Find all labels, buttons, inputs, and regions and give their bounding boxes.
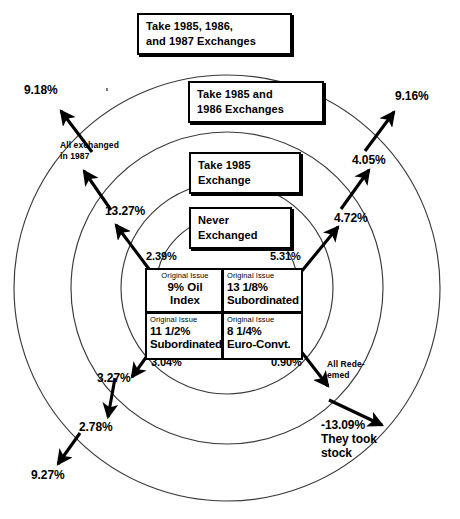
grid-cell-title: 8 1/4% Euro-Convt. (227, 325, 300, 351)
arrow-4-05 (341, 170, 369, 209)
grid-cell-8-1-4-euro-convt: Original Issue 8 1/4% Euro-Convt. (224, 314, 301, 358)
annotation-pct-3-27: 3.27% (97, 372, 131, 386)
ring-label-take-1985-1986: Take 1985 and 1986 Exchanges (188, 81, 324, 123)
grid-cell-13-1-8-subordinated: Original Issue 13 1/8% Subordinated (224, 270, 301, 314)
grid-cell-oil-index: Original Issue 9% Oil Index (147, 270, 224, 314)
grid-cell-sublabel: Original Issue (150, 272, 220, 280)
annotation-pct-2-39: 2.39% (146, 250, 177, 263)
arrow-0-90 (300, 350, 328, 386)
annotation-pct-9-27: 9.27% (31, 469, 65, 483)
ring-label-never-exchanged: Never Exchanged (189, 207, 292, 249)
annotation-pct-13-27: 13.27% (105, 205, 145, 219)
annotation-pct-3-04: 3.04% (151, 356, 182, 369)
annotation-pct-0-90: 0.90% (271, 356, 302, 369)
grid-cell-sublabel: Original Issue (150, 316, 220, 324)
grid-cell-title: 11 1/2% Subordinated (150, 325, 220, 351)
annotation-pct-9-16: 9.16% (395, 90, 429, 104)
grid-cell-title: 9% Oil Index (150, 281, 220, 307)
diagram-canvas: Take 1985, 1986, and 1987 Exchanges Take… (0, 0, 460, 519)
arrow-2-78 (58, 433, 80, 464)
arrow-13-27 (116, 225, 152, 273)
rings-and-arrows-layer (0, 0, 460, 519)
annotation-pct-4-72: 4.72% (334, 212, 368, 226)
grid-cell-title: 13 1/8% Subordinated (227, 281, 300, 307)
grid-cell-sublabel: Original Issue (227, 316, 300, 324)
annotation-they-took-stock: -13.09% They took stock (321, 419, 377, 461)
annotation-pct-2-78: 2.78% (79, 421, 113, 435)
ring-label-take-1985: Take 1985 Exchange (189, 152, 301, 194)
scan-artifact-speck (106, 88, 108, 91)
annotation-pct-4-05: 4.05% (352, 154, 386, 168)
annotation-all-exchanged-1987: All exchanged in 1987 (60, 140, 119, 161)
arrow-9-16 (365, 112, 394, 151)
arrow-4-72 (301, 227, 338, 272)
center-instrument-grid: Original Issue 9% Oil Index Original Iss… (145, 268, 303, 360)
annotation-pct-9-18: 9.18% (24, 84, 58, 98)
ring-label-take-1985-1986-1987: Take 1985, 1986, and 1987 Exchanges (137, 13, 292, 55)
annotation-pct-5-31: 5.31% (270, 250, 301, 263)
annotation-all-redeemed: All Rede- emed (327, 359, 365, 380)
grid-cell-sublabel: Original Issue (227, 272, 300, 280)
grid-cell-11-1-2-subordinated: Original Issue 11 1/2% Subordinated (147, 314, 224, 358)
